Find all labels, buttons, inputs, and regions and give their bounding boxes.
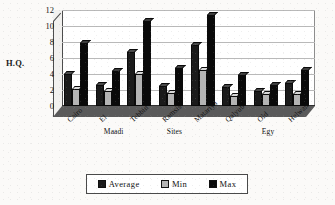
y-tick-label: 12 <box>46 6 55 14</box>
bar-top-face <box>80 40 91 43</box>
bar-face <box>222 87 230 106</box>
bar-face <box>104 91 112 106</box>
bar-average <box>96 85 104 106</box>
bar-average <box>127 52 135 106</box>
bar-face <box>159 86 167 106</box>
bar-top-face <box>222 84 233 87</box>
bar-face <box>72 89 80 106</box>
bar-face <box>207 15 215 106</box>
bar-top-face <box>285 80 296 83</box>
bar-face <box>285 83 293 106</box>
legend-item: Max <box>209 179 237 189</box>
bar-group <box>285 10 309 106</box>
bar-group <box>96 10 120 106</box>
y-tick-label: 0 <box>50 102 54 110</box>
bar-top-face <box>207 12 218 15</box>
legend-label: Min <box>172 179 187 189</box>
bar-max <box>301 70 309 106</box>
chart-figure: H.Q. 024681012 CairoElMaadiTebbinRamsisS… <box>0 0 335 205</box>
bar-max <box>80 43 88 106</box>
legend-swatch-icon <box>98 180 106 188</box>
bar-top-face <box>301 67 312 70</box>
bar-face <box>301 70 309 106</box>
y-tick-label: 8 <box>50 38 54 46</box>
y-tick-label: 10 <box>46 22 55 30</box>
bar-group <box>222 10 246 106</box>
bar-top-face <box>175 65 186 68</box>
bar-average <box>64 74 72 106</box>
bar-face <box>64 74 72 106</box>
bar-max <box>207 15 215 106</box>
bar-face <box>199 70 207 106</box>
legend-item: Average <box>98 179 140 189</box>
bar-top-face <box>127 49 138 52</box>
bar-top-face <box>191 42 202 45</box>
bar-face <box>112 71 120 106</box>
bar-face <box>262 94 270 106</box>
y-tick-label: 2 <box>50 86 54 94</box>
bar-top-face <box>270 82 281 85</box>
bar-average <box>191 45 199 106</box>
x-axis-labels: CairoElMaadiTebbinRamsisSitesMatariyaQal… <box>53 118 325 166</box>
bar-average <box>285 83 293 106</box>
y-tick-label: 6 <box>50 54 54 62</box>
legend-item: Min <box>161 179 187 189</box>
bar-average <box>254 91 262 106</box>
bar-top-face <box>143 18 154 21</box>
bar-groups <box>62 10 315 106</box>
bar-top-face <box>112 68 123 71</box>
bar-face <box>135 74 143 106</box>
bar-face <box>127 52 135 106</box>
bar-top-face <box>96 82 107 85</box>
y-axis-ticks: 024681012 <box>32 4 54 114</box>
bar-min <box>199 70 207 106</box>
bar-max <box>143 21 151 106</box>
bar-max <box>270 85 278 106</box>
bar-max <box>112 71 120 106</box>
bar-face <box>96 85 104 106</box>
bar-group <box>254 10 278 106</box>
bar-min <box>262 94 270 106</box>
bar-top-face <box>159 83 170 86</box>
y-axis-title: H.Q. <box>6 58 24 68</box>
bar-average <box>159 86 167 106</box>
legend-swatch-icon <box>209 180 217 188</box>
y-tick-label: 4 <box>50 70 54 78</box>
bar-group <box>191 10 215 106</box>
bar-top-face <box>238 72 249 75</box>
bar-max <box>175 68 183 106</box>
bar-group <box>127 10 151 106</box>
legend-label: Max <box>220 179 237 189</box>
bar-average <box>222 87 230 106</box>
bar-min <box>104 91 112 106</box>
bar-min <box>72 89 80 106</box>
bar-face <box>80 43 88 106</box>
x-tick-label-line2: Egy <box>262 128 274 136</box>
legend-label: Average <box>109 179 140 189</box>
bar-face <box>143 21 151 106</box>
bar-min <box>135 74 143 106</box>
bar-top-face <box>254 88 265 91</box>
bar-face <box>191 45 199 106</box>
bar-face <box>175 68 183 106</box>
x-tick-label-line2: Maadi <box>103 128 123 136</box>
bar-group <box>64 10 88 106</box>
chart-legend: AverageMinMax <box>86 174 248 194</box>
bar-face <box>254 91 262 106</box>
bar-face <box>270 85 278 106</box>
bar-top-face <box>64 71 75 74</box>
bar-group <box>159 10 183 106</box>
plot-floor <box>53 106 315 117</box>
legend-swatch-icon <box>161 180 169 188</box>
x-tick-label-line2: Sites <box>167 128 182 136</box>
